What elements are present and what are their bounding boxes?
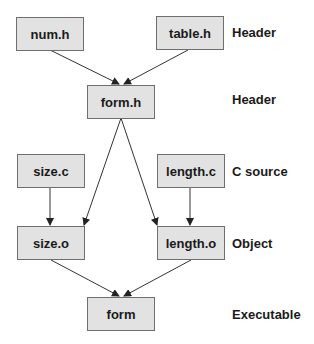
edge-size-o-to-form — [51, 260, 119, 296]
row-label-object: Object — [232, 236, 272, 251]
edge-form-h-to-length-o — [121, 118, 157, 225]
row-label-c-source: C source — [232, 164, 288, 179]
node-num-h: num.h — [16, 17, 84, 51]
node-size-c: size.c — [17, 154, 85, 188]
node-size-o: size.o — [17, 226, 85, 260]
node-length-o: length.o — [157, 226, 225, 260]
node-length-c: length.c — [157, 154, 225, 188]
edge-num-h-to-form-h — [50, 50, 119, 84]
row-label-executable: Executable — [232, 307, 301, 322]
row-label-header-2: Header — [232, 92, 276, 107]
edge-form-h-to-size-o — [84, 118, 121, 225]
edge-length-o-to-form — [124, 260, 191, 296]
node-form: form — [87, 297, 155, 331]
build-dependency-diagram: num.h table.h form.h size.c length.c siz… — [0, 0, 314, 344]
row-label-header-1: Header — [232, 25, 276, 40]
node-form-h: form.h — [87, 85, 155, 119]
edge-table-h-to-form-h — [124, 50, 188, 84]
node-table-h: table.h — [156, 16, 224, 50]
